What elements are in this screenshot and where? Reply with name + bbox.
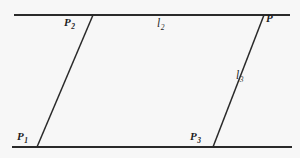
label-point-p2-subscript: 2 bbox=[71, 22, 75, 31]
label-point-p1-base: P bbox=[17, 130, 24, 142]
label-point-p3-base: P bbox=[190, 130, 197, 142]
label-point-p1: P1 bbox=[17, 131, 28, 142]
label-line-l3-subscript: 3 bbox=[240, 75, 244, 84]
label-point-p3: P3 bbox=[190, 131, 201, 142]
label-line-l3: l3 bbox=[236, 70, 243, 82]
label-point-p-base: P bbox=[266, 12, 273, 24]
geometry-diagram: P2 l2 P l3 P1 P3 bbox=[0, 0, 300, 158]
label-point-p: P bbox=[266, 13, 273, 24]
label-line-l2: l2 bbox=[157, 18, 164, 30]
label-line-l2-subscript: 2 bbox=[161, 23, 165, 32]
label-point-p3-subscript: 3 bbox=[197, 136, 201, 145]
diagram-background bbox=[0, 0, 300, 158]
label-line-l2-base: l bbox=[157, 17, 160, 29]
diagram-canvas bbox=[0, 0, 300, 158]
label-point-p2-base: P bbox=[64, 16, 71, 28]
label-line-l3-base: l bbox=[236, 69, 239, 81]
label-point-p1-subscript: 1 bbox=[24, 136, 28, 145]
label-point-p2: P2 bbox=[64, 17, 75, 28]
